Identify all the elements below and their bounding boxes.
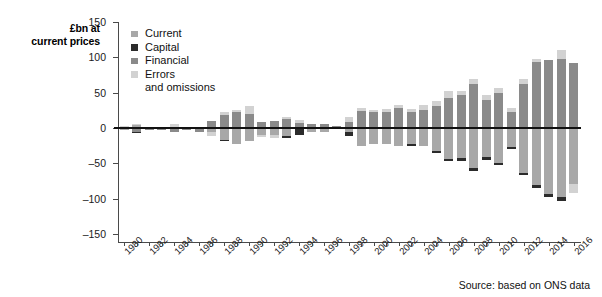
- bar-segment: [220, 140, 229, 141]
- bar-segment: [195, 129, 204, 131]
- legend-label: Errors: [145, 68, 215, 82]
- bar-segment: [382, 112, 391, 128]
- bar-segment: [295, 129, 304, 135]
- y-tick-label: –50: [62, 157, 106, 169]
- bar-segment: [544, 60, 553, 128]
- x-tick-mark: [461, 242, 462, 246]
- legend-swatch-icon: [131, 44, 138, 51]
- bar-segment: [457, 128, 466, 158]
- bar-segment: [519, 79, 528, 84]
- bar-segment: [469, 84, 478, 128]
- bar-segment: [519, 84, 528, 128]
- bar-segment: [357, 111, 366, 128]
- x-tick-mark: [312, 242, 313, 246]
- x-tick-mark: [137, 242, 138, 246]
- bar-segment: [432, 101, 441, 106]
- y-tick-label: 100: [62, 51, 106, 63]
- bar-segment: [507, 108, 516, 112]
- x-tick-mark: [337, 242, 338, 246]
- bar-segment: [357, 108, 366, 111]
- bar-segment: [432, 106, 441, 128]
- bar-segment: [232, 112, 241, 128]
- x-tick-mark: [436, 242, 437, 246]
- bar-segment: [369, 112, 378, 128]
- bar-segment: [494, 128, 503, 163]
- bar-segment: [444, 98, 453, 128]
- x-tick-mark: [411, 242, 412, 246]
- x-tick-mark: [187, 242, 188, 246]
- bar-segment: [507, 112, 516, 128]
- bar-segment: [519, 173, 528, 175]
- bar-segment: [245, 114, 254, 128]
- source-note: Source: based on ONS data: [459, 279, 590, 291]
- bar-segment: [544, 128, 553, 194]
- x-tick-mark: [511, 242, 512, 246]
- x-tick-mark: [212, 242, 213, 246]
- bar-segment: [494, 163, 503, 166]
- bar-segment: [357, 128, 366, 146]
- bar-segment: [532, 59, 541, 63]
- bar-segment: [270, 135, 279, 138]
- x-tick-mark: [386, 242, 387, 246]
- bar-segment: [482, 95, 491, 99]
- bar-segment: [369, 128, 378, 144]
- bar-segment: [557, 197, 566, 201]
- bar-segment: [569, 128, 578, 184]
- bar-segment: [457, 158, 466, 161]
- bar-segment: [270, 128, 279, 135]
- bar-segment: [220, 115, 229, 128]
- bar-segment: [457, 95, 466, 128]
- bar-segment: [345, 132, 354, 136]
- bar-segment: [507, 147, 516, 149]
- y-tick-label: 150: [62, 16, 106, 28]
- bar-segment: [394, 128, 403, 146]
- legend-label: Financial: [145, 54, 215, 68]
- bar-segment: [519, 128, 528, 173]
- bar-segment: [407, 109, 416, 113]
- bar-segment: [432, 128, 441, 151]
- y-tick-label: –150: [62, 228, 106, 240]
- bar-segment: [419, 128, 428, 146]
- y-tick-label: 0: [62, 122, 106, 134]
- bar-segment: [245, 106, 254, 114]
- bar-segment: [444, 91, 453, 97]
- bar-segment: [469, 168, 478, 172]
- bar-segment: [232, 128, 241, 144]
- legend-swatch-icon: [131, 71, 138, 78]
- bar-segment: [507, 128, 516, 147]
- bar-segment: [482, 100, 491, 128]
- bar-segment: [482, 128, 491, 157]
- bar-segment: [394, 105, 403, 108]
- bar-segment: [407, 144, 416, 146]
- bar-segment: [432, 151, 441, 152]
- bar-segment: [369, 110, 378, 113]
- bar-segment: [282, 128, 291, 136]
- bar-segment: [419, 105, 428, 109]
- legend-item: Current: [131, 27, 215, 41]
- x-tick-mark: [486, 242, 487, 246]
- bar-segment: [444, 128, 453, 159]
- bar-segment: [569, 63, 578, 128]
- bar-segment: [532, 62, 541, 128]
- zero-baseline: [114, 127, 581, 129]
- bar-segment: [407, 112, 416, 128]
- bar-segment: [132, 132, 141, 133]
- bar-segment: [494, 93, 503, 128]
- legend-swatch-icon: [131, 31, 138, 38]
- bar-segment: [394, 108, 403, 128]
- bar-segment: [207, 132, 216, 136]
- bar-segment: [132, 124, 141, 125]
- legend-label-line2: and omissions: [145, 81, 215, 95]
- bar-segment: [257, 128, 266, 135]
- bar-segment: [494, 88, 503, 92]
- bar-segment: [295, 120, 304, 124]
- legend-label: Current: [145, 27, 215, 41]
- x-tick-mark: [237, 242, 238, 246]
- y-tick-label: 50: [62, 87, 106, 99]
- legend-item: Financial: [131, 54, 215, 68]
- bar-segment: [482, 157, 491, 160]
- bar-segment: [220, 128, 229, 140]
- bar-segment: [220, 112, 229, 114]
- bar-segment: [345, 117, 354, 121]
- bar-segment: [444, 159, 453, 161]
